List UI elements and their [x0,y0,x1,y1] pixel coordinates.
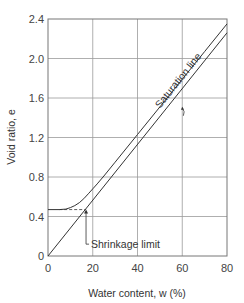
y-tick-label: 0 [38,250,44,262]
y-tick-label: 1.2 [29,132,44,144]
y-tick-label: 0.8 [29,171,44,183]
x-axis-label: Water content, w (%) [88,287,186,299]
saturation-line-label: Saturation line [152,50,203,110]
y-axis-label: Void ratio, e [5,109,17,165]
y-tick-label: 2.0 [29,53,44,65]
shrinkage-chart: Shrinkage limitSaturation line 020406080… [0,0,244,303]
tick-labels: 02040608000.40.81.21.62.02.4 [29,13,233,274]
shrinkage-limit-label: Shrinkage limit [91,238,160,250]
x-tick-label: 20 [87,262,99,274]
grid [48,19,227,256]
x-tick-label: 40 [131,262,143,274]
y-tick-label: 1.6 [29,92,44,104]
y-tick-label: 2.4 [29,13,44,25]
x-tick-label: 0 [45,262,51,274]
x-tick-label: 60 [176,262,188,274]
y-tick-label: 0.4 [29,211,44,223]
saturation-line-arrow [181,107,184,110]
x-tick-label: 80 [221,262,233,274]
